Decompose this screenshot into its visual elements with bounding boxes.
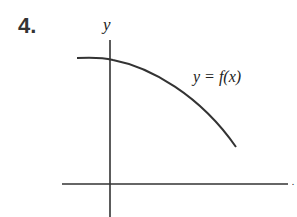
curve-label: y = f(x) bbox=[193, 68, 241, 86]
x-axis-label: . bbox=[292, 176, 297, 187]
y-axis-label: y bbox=[103, 15, 111, 35]
graph bbox=[0, 0, 297, 217]
